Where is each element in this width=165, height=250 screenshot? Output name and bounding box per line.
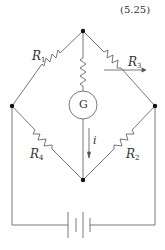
label-r3-letter: R <box>128 55 137 69</box>
label-current: i <box>93 135 97 146</box>
node-top <box>81 29 85 33</box>
resistor-r3 <box>83 31 155 106</box>
label-galvanometer: G <box>79 99 88 110</box>
node-right <box>153 104 157 108</box>
current-arrow-icon <box>88 128 91 158</box>
label-r3: R3 <box>128 56 142 70</box>
label-r4-letter: R <box>30 147 39 161</box>
resistor-r4 <box>12 106 83 180</box>
label-r2-letter: R <box>126 147 135 161</box>
label-r1: R1 <box>32 50 46 64</box>
node-bottom <box>81 178 85 182</box>
label-r4-sub: 4 <box>39 154 43 162</box>
battery-icon <box>68 212 90 238</box>
wheatstone-bridge-diagram: (5.25) R1 R3 R4 R2 G i <box>0 0 165 250</box>
resistor-center <box>80 31 86 91</box>
equation-number: (5.25) <box>120 5 150 15</box>
resistor-r1 <box>12 31 83 106</box>
label-r2: R2 <box>126 148 140 162</box>
label-r4: R4 <box>30 148 44 162</box>
circuit-svg <box>0 0 165 250</box>
label-r1-sub: 1 <box>41 56 45 64</box>
label-r2-sub: 2 <box>135 154 139 162</box>
node-left <box>10 104 14 108</box>
battery-loop-wire <box>12 106 155 225</box>
label-r1-letter: R <box>32 49 41 63</box>
label-r3-sub: 3 <box>137 62 141 70</box>
